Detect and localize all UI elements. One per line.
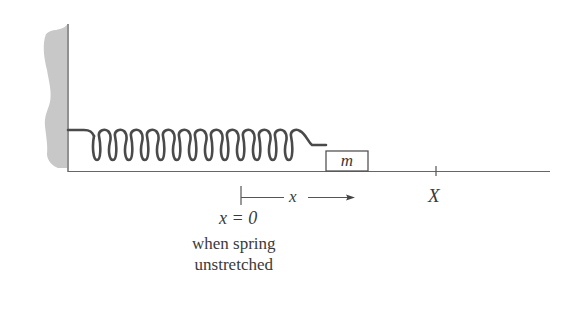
caption-line-1: when spring	[192, 233, 276, 254]
spring	[68, 130, 326, 160]
origin-label: x = 0	[219, 209, 257, 227]
position-marker-label: X	[428, 186, 440, 205]
mass-label: m	[326, 151, 368, 171]
caption-line-2: unstretched	[192, 254, 276, 275]
origin-caption: when spring unstretched	[192, 233, 276, 275]
displacement-label: x	[289, 188, 297, 205]
wall-hatching	[44, 25, 67, 168]
origin-label-text: x = 0	[219, 208, 257, 228]
spring-mass-diagram	[0, 0, 566, 310]
